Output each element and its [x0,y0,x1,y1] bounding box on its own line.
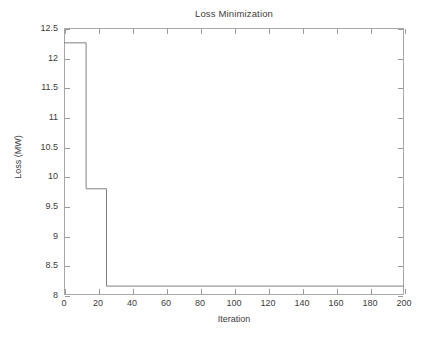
y-tick-label: 11.5 [41,82,62,92]
y-tick-mark [398,296,403,297]
x-tick-label: 180 [362,298,377,308]
x-tick-mark [405,29,406,34]
y-tick-label: 10.5 [40,142,62,152]
x-axis-tick-labels: 020406080100120140160180200 [64,298,404,312]
y-tick-label: 12.5 [40,23,62,33]
x-tick-label: 80 [195,298,205,308]
x-tick-label: 200 [396,298,411,308]
chart-title: Loss Minimization [64,8,404,19]
plot-area [64,28,404,295]
x-axis-label: Iteration [64,314,404,324]
x-tick-label: 20 [93,298,103,308]
loss-curve [64,43,404,286]
x-tick-label: 0 [61,298,66,308]
y-tick-label: 9 [53,231,62,241]
x-tick-label: 160 [328,298,343,308]
x-tick-label: 60 [161,298,171,308]
y-tick-label: 10 [48,171,62,181]
y-tick-mark [65,296,70,297]
x-tick-label: 140 [294,298,309,308]
figure-canvas: Loss Minimization Loss (MW) 88.599.51010… [0,0,430,340]
x-tick-label: 40 [127,298,137,308]
x-tick-label: 100 [226,298,241,308]
y-tick-label: 9.5 [45,201,62,211]
data-series-layer [64,28,404,295]
x-tick-label: 120 [260,298,275,308]
y-tick-label: 8.5 [45,260,62,270]
y-tick-label: 11 [49,112,62,122]
y-tick-label: 12 [48,53,62,63]
x-tick-mark [405,289,406,294]
y-axis-tick-labels: 88.599.51010.51111.51212.5 [0,28,62,295]
